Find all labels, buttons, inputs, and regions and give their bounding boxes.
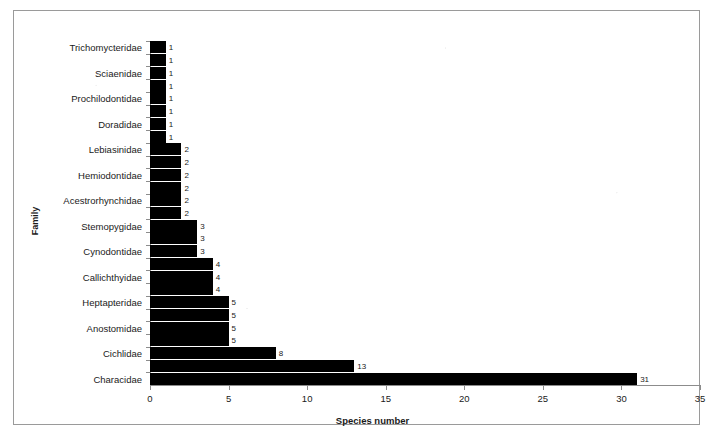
bar-value-label: 3 (197, 221, 204, 230)
bar-row[interactable]: 1Doradidae (150, 118, 700, 130)
bar-row[interactable]: 3 (150, 232, 700, 244)
bar[interactable] (150, 347, 276, 359)
bar-row[interactable]: 31Characidae (150, 373, 700, 385)
y-axis-tick (146, 219, 150, 220)
bar-row[interactable]: 1Prochilodontidae (150, 92, 700, 104)
bar-value-label: 2 (181, 158, 188, 167)
bar-row[interactable]: 2 (150, 207, 700, 219)
bar[interactable] (150, 118, 166, 130)
bar[interactable] (150, 194, 181, 206)
bar-value-label: 5 (229, 336, 236, 345)
y-axis-tick (146, 130, 150, 131)
bar[interactable] (150, 245, 197, 257)
bar-row[interactable]: 1 (150, 80, 700, 92)
bar[interactable] (150, 271, 213, 283)
bar[interactable] (150, 92, 166, 104)
bar-row[interactable]: 2Acestrorhynchidae (150, 194, 700, 206)
bar[interactable] (150, 334, 229, 346)
bar[interactable] (150, 296, 229, 308)
bar[interactable] (150, 220, 197, 232)
bar-row[interactable]: 3Cynodontidae (150, 245, 700, 257)
figure-frame: Family 1Trichomycteridae11Sciaenidae11Pr… (13, 10, 700, 425)
bar[interactable] (150, 169, 181, 181)
bar[interactable] (150, 373, 637, 385)
category-label: Anostomidae (2, 322, 142, 333)
x-axis-tick-label: 0 (130, 393, 170, 404)
bar[interactable] (150, 309, 229, 321)
bar-row[interactable]: 2Hemiodontidae (150, 169, 700, 181)
bar-value-label: 1 (166, 56, 173, 65)
bar-value-label: 3 (197, 247, 204, 256)
bar[interactable] (150, 156, 181, 168)
x-axis-tick-label: 5 (209, 393, 249, 404)
category-label: Callichthyidae (2, 271, 142, 282)
y-axis-tick (146, 92, 150, 93)
y-axis-tick (146, 54, 150, 55)
bar-row[interactable]: 1Sciaenidae (150, 67, 700, 79)
bar[interactable] (150, 207, 181, 219)
bar-row[interactable]: 5Anostomidae (150, 322, 700, 334)
bar-row[interactable]: 1Trichomycteridae (150, 41, 700, 53)
bar[interactable] (150, 283, 213, 295)
x-axis-tick (386, 386, 387, 390)
bar-value-label: 4 (213, 259, 220, 268)
category-label: Cynodontidae (2, 246, 142, 257)
bar-row[interactable]: 1 (150, 54, 700, 66)
bar[interactable] (150, 105, 166, 117)
bar-row[interactable]: 2 (150, 156, 700, 168)
x-axis-title: Species number (14, 415, 717, 426)
bar[interactable] (150, 360, 354, 372)
y-axis-tick (146, 283, 150, 284)
x-axis-tick (229, 386, 230, 390)
y-axis-tick (146, 232, 150, 233)
x-axis-tick-label: 25 (523, 393, 563, 404)
y-axis-tick (146, 41, 150, 42)
bar[interactable] (150, 54, 166, 66)
bar[interactable] (150, 258, 213, 270)
x-axis-tick-label: 10 (287, 393, 327, 404)
bar-row[interactable]: 2 (150, 182, 700, 194)
bar-value-label: 4 (213, 272, 220, 281)
bar[interactable] (150, 232, 197, 244)
bar-value-label: 5 (229, 310, 236, 319)
bar-row[interactable]: 4 (150, 258, 700, 270)
bar[interactable] (150, 67, 166, 79)
bar-row[interactable]: 4Callichthyidae (150, 271, 700, 283)
x-axis-tick (307, 386, 308, 390)
category-label: Doradidae (2, 118, 142, 129)
bar[interactable] (150, 182, 181, 194)
plot-area: 1Trichomycteridae11Sciaenidae11Prochilod… (150, 41, 700, 385)
bar-value-label: 1 (166, 43, 173, 52)
bar-value-label: 1 (166, 132, 173, 141)
bar-row[interactable]: 1 (150, 131, 700, 143)
bar[interactable] (150, 131, 166, 143)
bar-value-label: 2 (181, 145, 188, 154)
x-axis-tick-label: 30 (601, 393, 641, 404)
bar-value-label: 5 (229, 323, 236, 332)
bar-row[interactable]: 3Stemopygidae (150, 220, 700, 232)
bar-value-label: 3 (197, 234, 204, 243)
y-axis-tick (146, 143, 150, 144)
bar-value-label: 2 (181, 183, 188, 192)
bar-row[interactable]: 5Heptapteridae (150, 296, 700, 308)
bar-row[interactable]: 5 (150, 309, 700, 321)
y-axis-tick (146, 309, 150, 310)
y-axis-tick (146, 207, 150, 208)
y-axis-tick (146, 372, 150, 373)
bar-value-label: 1 (166, 81, 173, 90)
x-axis-tick (150, 386, 151, 390)
category-label: Cichlidae (2, 348, 142, 359)
bar-row[interactable]: 5 (150, 334, 700, 346)
bar-row[interactable]: 13 (150, 360, 700, 372)
bar-value-label: 2 (181, 196, 188, 205)
bar-row[interactable]: 4 (150, 283, 700, 295)
bar[interactable] (150, 80, 166, 92)
y-axis-tick (146, 156, 150, 157)
x-axis-tick (700, 386, 701, 390)
bar[interactable] (150, 41, 166, 53)
bar[interactable] (150, 143, 181, 155)
bar-row[interactable]: 8Cichlidae (150, 347, 700, 359)
bar-row[interactable]: 2Lebiasinidae (150, 143, 700, 155)
bar-row[interactable]: 1 (150, 105, 700, 117)
bar[interactable] (150, 322, 229, 334)
